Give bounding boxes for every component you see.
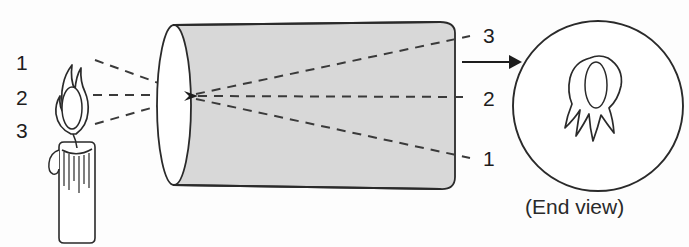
candle-group	[49, 65, 95, 243]
end-view-caption: (End view)	[525, 196, 624, 217]
source-label-2: 2	[16, 87, 28, 108]
image-label-1: 1	[483, 148, 495, 169]
cylinder-body	[174, 22, 455, 189]
camera-cylinder	[157, 22, 455, 189]
pinhole-camera-diagram: 1 2 3 3 2 1 (End view)	[0, 0, 689, 247]
inverted-flame-inner-oval	[585, 62, 607, 108]
image-label-3: 3	[483, 25, 495, 46]
source-label-1: 1	[16, 52, 28, 73]
end-view-group	[513, 21, 683, 191]
source-label-3: 3	[16, 120, 28, 141]
cylinder-front-face	[157, 25, 191, 185]
image-label-2: 2	[483, 88, 495, 109]
candle-flame-inner-oval	[62, 87, 82, 129]
candle-wax-drip	[49, 150, 59, 174]
view-transfer-arrow	[462, 55, 522, 69]
internal-ray-to-2	[198, 96, 470, 97]
